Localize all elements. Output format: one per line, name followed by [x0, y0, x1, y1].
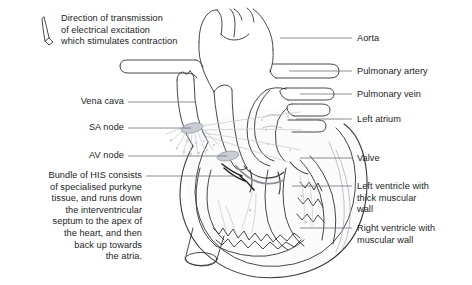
label-pulmonary-artery: Pulmonary artery [357, 66, 469, 78]
direction-of-transmission-note: Direction of transmission of electrical … [61, 13, 241, 48]
heart-diagram-figure: .ln { fill:none; stroke:#333333; stroke-… [0, 0, 472, 285]
label-left-atrium: Left atrium [357, 114, 469, 126]
label-aorta: Aorta [357, 33, 469, 45]
label-pulmonary-vein: Pulmonary vein [357, 89, 469, 101]
label-sa-node: SA node [28, 122, 124, 134]
label-vena-cava: Vena cava [28, 96, 124, 108]
label-right-ventricle: Right ventricle with muscular wall [357, 223, 471, 246]
label-left-ventricle: Left ventricle with thick muscular wall [357, 181, 471, 216]
label-bundle-of-his: Bundle of HIS consists of specialised pu… [8, 170, 142, 263]
label-valve: Valve [357, 153, 469, 165]
down-arrow-icon [42, 17, 53, 45]
heart-body-fill [181, 108, 366, 274]
superior-vena-cava [120, 60, 203, 78]
label-av-node: AV node [28, 150, 124, 162]
